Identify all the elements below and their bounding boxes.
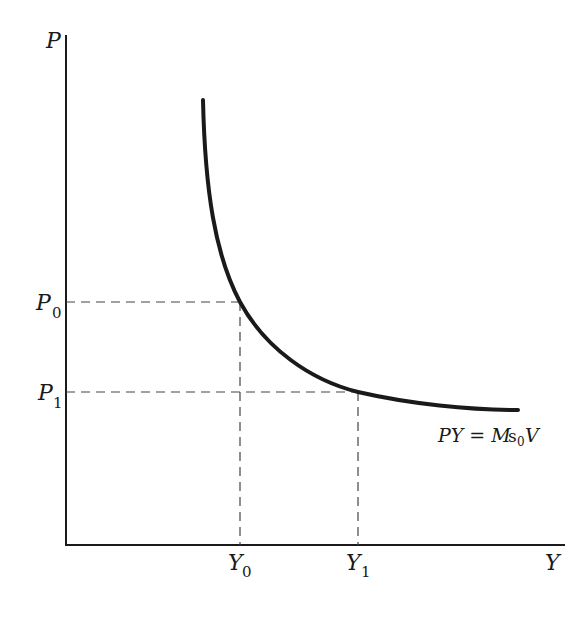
equation-lhs: PY = M xyxy=(437,424,511,446)
p0-label: P xyxy=(35,290,52,315)
y0-subscript: 0 xyxy=(242,563,252,581)
y1-subscript: 1 xyxy=(361,563,371,581)
equation-rhs: V xyxy=(525,424,541,446)
p0-subscript: 0 xyxy=(52,304,62,322)
y-axis-label: P xyxy=(45,28,62,53)
svg-text:PY = M: PY = M xyxy=(437,424,511,446)
x-axis-label: Y xyxy=(545,550,562,575)
equation-s: s xyxy=(508,426,517,446)
equation-sub: 0 xyxy=(517,435,525,449)
p1-subscript: 1 xyxy=(53,394,63,412)
curve-equation-label: PY = M s 0 V xyxy=(437,424,541,449)
p1-label: P xyxy=(37,380,54,405)
demand-hyperbola-curve xyxy=(203,100,518,410)
quantity-theory-diagram: P Y P 0 P 1 Y 0 Y 1 PY = M s 0 V xyxy=(0,0,585,620)
